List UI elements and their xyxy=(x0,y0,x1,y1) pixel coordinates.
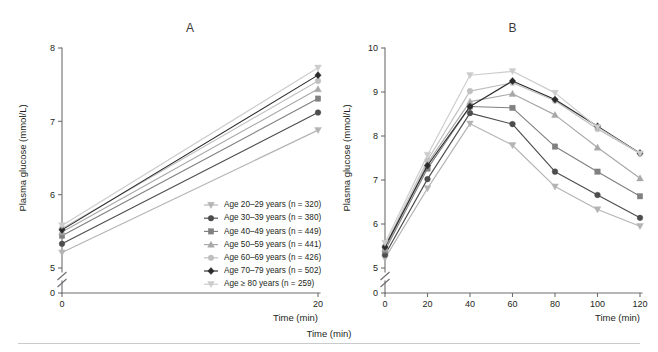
two-panel-glucose-chart: A56780020Plasma glucose (mmol/L)Time (mi… xyxy=(0,0,658,352)
legend-item-label: Age 70–79 years (n = 502) xyxy=(224,266,321,275)
legend-item[interactable]: Age 50–59 years (n = 441) xyxy=(204,240,321,249)
data-point-circle xyxy=(510,121,516,127)
legend-item[interactable]: Age 60–69 years (n = 426) xyxy=(204,253,321,262)
legend-item-label: Age 30–39 years (n = 380) xyxy=(224,213,321,222)
y-tick-label-A-zero: 0 xyxy=(50,288,55,298)
legend-item[interactable]: Age 20–29 years (n = 320) xyxy=(204,200,321,209)
data-point-circle xyxy=(208,255,214,261)
data-point-square xyxy=(637,194,642,199)
data-point-triangle-up xyxy=(552,111,559,117)
series-B-5 xyxy=(382,77,643,250)
x-tick-label-B-80: 80 xyxy=(550,299,560,309)
series-line-B-2 xyxy=(385,107,640,251)
axis-break-slash-B-0 xyxy=(381,272,390,280)
x-tick-label-B-120: 120 xyxy=(632,299,647,309)
legend-item[interactable]: Age 40–49 years (n = 449) xyxy=(204,227,321,236)
x-tick-label-A-20: 20 xyxy=(313,299,323,309)
data-point-square xyxy=(510,105,515,110)
figure-root: A56780020Plasma glucose (mmol/L)Time (mi… xyxy=(0,0,658,352)
data-point-circle xyxy=(595,192,601,198)
data-point-triangle-up xyxy=(315,86,322,92)
data-point-circle xyxy=(467,88,473,94)
series-line-B-1 xyxy=(385,113,640,255)
y-tick-label-A-8: 8 xyxy=(50,43,55,53)
data-point-triangle-down xyxy=(552,184,559,190)
y-tick-label-A-7: 7 xyxy=(50,117,55,127)
y-tick-label-A-6: 6 xyxy=(50,190,55,200)
panel-A: A56780020Plasma glucose (mmol/L)Time (mi… xyxy=(17,21,323,323)
data-point-circle xyxy=(467,110,473,116)
data-point-circle xyxy=(637,215,643,221)
y-axis-title-B: Plasma glucose (mmol/L) xyxy=(341,104,352,211)
data-point-circle xyxy=(425,176,431,182)
series-line-A-1 xyxy=(62,113,318,244)
data-point-triangle-down xyxy=(467,121,474,127)
data-point-circle xyxy=(208,215,214,221)
legend-item-label: Age 40–49 years (n = 449) xyxy=(224,227,321,236)
x-tick-label-B-60: 60 xyxy=(507,299,517,309)
y-tick-label-B-10: 10 xyxy=(368,43,378,53)
figure-x-axis-caption: Time (min) xyxy=(306,328,351,339)
panel-B: B56789100020406080100120Plasma glucose (… xyxy=(341,21,648,323)
data-point-triangle-down xyxy=(637,224,644,230)
y-tick-label-B-5: 5 xyxy=(373,263,378,273)
data-point-square xyxy=(315,96,320,101)
data-point-circle xyxy=(315,78,321,84)
legend-item[interactable]: Age ≥ 80 years (n = 259) xyxy=(204,279,315,288)
data-point-triangle-down xyxy=(315,65,322,71)
x-tick-label-B-100: 100 xyxy=(590,299,605,309)
legend-item-label: Age 20–29 years (n = 320) xyxy=(224,200,321,209)
data-point-triangle-down xyxy=(424,186,431,192)
y-tick-label-B-6: 6 xyxy=(373,219,378,229)
x-axis-title-A: Time (min) xyxy=(273,312,318,323)
data-point-circle xyxy=(59,241,65,247)
x-tick-label-B-0: 0 xyxy=(382,299,387,309)
legend-item-label: Age 50–59 years (n = 441) xyxy=(224,240,321,249)
y-axis-title-A: Plasma glucose (mmol/L) xyxy=(17,104,28,211)
legend-item[interactable]: Age 70–79 years (n = 502) xyxy=(204,266,321,275)
data-point-triangle-up xyxy=(509,90,516,96)
data-point-circle xyxy=(552,169,558,175)
data-point-triangle-down xyxy=(315,127,322,133)
axis-break-slash-A-0 xyxy=(58,272,67,280)
data-point-square xyxy=(552,144,557,149)
data-point-triangle-up xyxy=(637,175,644,181)
data-point-circle xyxy=(315,110,321,116)
legend: Age 20–29 years (n = 320)Age 30–39 years… xyxy=(204,200,321,288)
footer-divider xyxy=(18,343,640,344)
y-tick-label-B-8: 8 xyxy=(373,131,378,141)
series-A-5 xyxy=(59,72,321,234)
x-axis-title-B: Time (min) xyxy=(595,312,640,323)
y-tick-label-A-5: 5 xyxy=(50,263,55,273)
data-point-diamond xyxy=(315,72,321,79)
legend-item-label: Age 60–69 years (n = 426) xyxy=(224,253,321,262)
x-tick-label-B-20: 20 xyxy=(422,299,432,309)
y-tick-label-B-9: 9 xyxy=(373,87,378,97)
x-tick-label-B-40: 40 xyxy=(465,299,475,309)
data-point-square xyxy=(595,169,600,174)
y-tick-label-B-7: 7 xyxy=(373,175,378,185)
panel-title-A: A xyxy=(186,21,194,35)
data-point-square xyxy=(208,229,213,234)
series-B-3 xyxy=(382,90,644,251)
series-line-A-3 xyxy=(62,89,318,232)
data-point-diamond xyxy=(208,267,214,274)
series-line-B-6 xyxy=(385,71,640,243)
x-tick-label-A-0: 0 xyxy=(59,299,64,309)
panel-title-B: B xyxy=(508,21,516,35)
legend-item[interactable]: Age 30–39 years (n = 380) xyxy=(204,213,321,222)
y-tick-label-B-zero: 0 xyxy=(373,288,378,298)
legend-item-label: Age ≥ 80 years (n = 259) xyxy=(224,279,315,288)
data-point-triangle-down xyxy=(59,250,66,256)
series-line-B-3 xyxy=(385,94,640,249)
